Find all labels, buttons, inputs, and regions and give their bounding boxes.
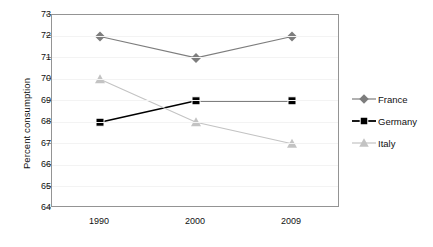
square-marker-icon: [351, 114, 377, 128]
gridline: [52, 165, 338, 166]
gridline: [52, 79, 338, 80]
gridline: [52, 57, 338, 58]
y-tick-label: 65: [29, 181, 51, 191]
x-tick-label: 2009: [281, 216, 301, 226]
gridline: [52, 100, 338, 101]
x-tick-label: 1990: [89, 216, 109, 226]
y-tick-label: 72: [29, 30, 51, 40]
legend-item-italy[interactable]: Italy: [351, 132, 433, 154]
line-chart: Percent consumption 64656667686970717273…: [0, 0, 433, 247]
data-layer: [52, 15, 339, 207]
legend-label: Germany: [377, 116, 417, 127]
y-tick-label: 66: [29, 159, 51, 169]
triangle-marker-icon: [351, 136, 377, 150]
y-tick-label: 67: [29, 138, 51, 148]
gridline: [52, 143, 338, 144]
y-tick-label: 68: [29, 116, 51, 126]
legend-label: France: [377, 94, 408, 105]
y-tick-label: 64: [29, 202, 51, 212]
gridline: [52, 186, 338, 187]
series-line: [100, 79, 292, 143]
y-tick-label: 69: [29, 95, 51, 105]
series-italy: [95, 74, 297, 147]
y-tick-label: 73: [29, 9, 51, 19]
y-tick-label: 70: [29, 73, 51, 83]
gridline: [52, 36, 338, 37]
legend-label: Italy: [377, 138, 395, 149]
gridline: [52, 122, 338, 123]
plot-area: [51, 14, 339, 207]
legend: FranceGermanyItaly: [351, 88, 433, 154]
legend-item-france[interactable]: France: [351, 88, 433, 110]
y-axis: 64656667686970717273: [0, 0, 51, 247]
diamond-marker-icon: [351, 92, 377, 106]
y-tick-label: 71: [29, 52, 51, 62]
legend-item-germany[interactable]: Germany: [351, 110, 433, 132]
x-tick-label: 2000: [185, 216, 205, 226]
